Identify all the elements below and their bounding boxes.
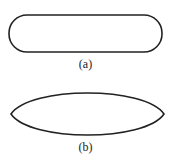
rounded-rectangle-shape (9, 15, 162, 52)
label-a: (a) (0, 57, 171, 72)
label-b: (b) (0, 140, 171, 155)
lens-ellipse-shape (11, 93, 164, 135)
figure-canvas (0, 0, 171, 160)
